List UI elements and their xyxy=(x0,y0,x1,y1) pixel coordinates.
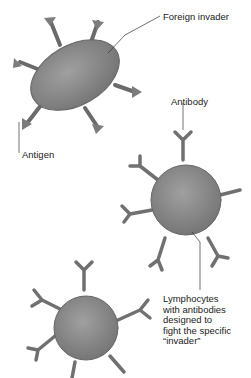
label-line: designed to xyxy=(163,315,231,326)
lymphocyte-lower xyxy=(28,262,150,378)
foreign-invader-cell xyxy=(13,17,142,134)
lymphocyte-upper xyxy=(122,132,240,270)
label-line: Lymphocytes xyxy=(163,294,231,305)
label-lymphocytes: Lymphocytes with antibodies designed to … xyxy=(163,294,231,347)
label-line: “invader” xyxy=(163,336,231,347)
label-foreign-invader: Foreign invader xyxy=(163,12,229,23)
label-antibody: Antibody xyxy=(171,97,208,108)
label-antigen: Antigen xyxy=(22,150,54,161)
